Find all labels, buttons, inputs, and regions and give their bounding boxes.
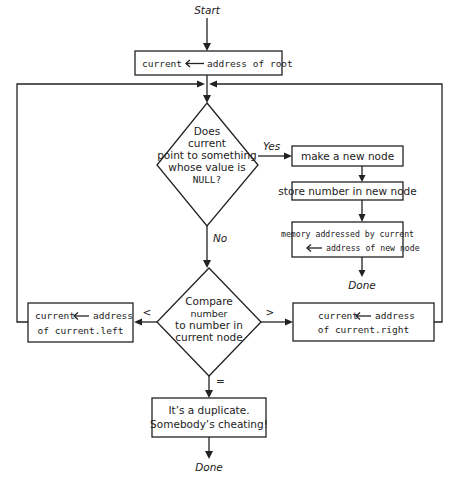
- arrowhead-icon: [205, 451, 213, 459]
- duplicate-line1: It’s a duplicate.: [168, 404, 249, 416]
- arrowhead-icon: [359, 175, 366, 182]
- decision-compare-line: Compare: [185, 295, 233, 307]
- yes-label: Yes: [263, 140, 281, 152]
- decision-compare-line: to number in: [175, 319, 243, 331]
- less-label: <: [143, 306, 152, 318]
- done-label-final: Done: [195, 461, 223, 473]
- no-label: No: [213, 232, 227, 244]
- arrowhead-icon: [197, 81, 205, 88]
- flowchart: Start current address of root Does curre…: [0, 0, 461, 485]
- arrowhead-icon: [359, 270, 366, 277]
- arrowhead-icon: [203, 43, 211, 51]
- store-number-box: store number in new node: [278, 182, 416, 200]
- make-node-text: make a new node: [301, 150, 394, 162]
- left-box: current address of current.left: [28, 303, 133, 342]
- arrowhead-icon: [134, 319, 142, 326]
- memory-line1: memory addressed by current: [281, 229, 414, 239]
- arrowhead-icon: [209, 81, 217, 88]
- loop-right: [216, 84, 442, 322]
- right-box-line2: of current.right: [318, 324, 410, 335]
- decision-null-line: Does: [194, 125, 220, 137]
- decision-null-line: point to something: [157, 149, 257, 161]
- arrowhead-icon: [205, 390, 213, 398]
- make-node-box: make a new node: [292, 146, 403, 166]
- init-box-left: current: [142, 58, 182, 69]
- init-box-right: address of root: [207, 58, 293, 69]
- arrowhead-icon: [203, 260, 211, 268]
- store-number-text: store number in new node: [278, 185, 416, 197]
- decision-null-line: whose value is: [168, 161, 245, 173]
- decision-null: Does current point to something whose va…: [157, 103, 258, 226]
- start-label: Start: [194, 4, 221, 16]
- decision-compare: Compare number to number in current node: [157, 268, 261, 376]
- left-box-line1-right: address: [93, 310, 133, 321]
- arrowhead-icon: [203, 95, 211, 103]
- duplicate-line2: Somebody’s cheating!: [150, 418, 268, 430]
- right-box: current address of current.right: [293, 303, 434, 341]
- memory-line2: address of new node: [326, 243, 420, 253]
- loop-left: [17, 84, 198, 322]
- decision-null-line: NULL?: [193, 174, 222, 185]
- left-box-line1-left: current: [35, 310, 75, 321]
- arrowhead-icon: [285, 319, 293, 326]
- equal-label: =: [216, 375, 225, 387]
- memory-box: memory addressed by current address of n…: [281, 222, 420, 257]
- duplicate-box: It’s a duplicate. Somebody’s cheating!: [150, 398, 268, 437]
- arrowhead-icon: [284, 153, 292, 160]
- left-box-line2: of current.left: [38, 325, 124, 336]
- right-box-line1-left: current: [318, 310, 358, 321]
- done-label-insert: Done: [348, 279, 376, 291]
- greater-label: >: [266, 306, 275, 318]
- right-box-line1-right: address: [375, 310, 415, 321]
- init-box: current address of root: [135, 51, 293, 75]
- decision-compare-line: current node: [175, 331, 242, 343]
- arrowhead-icon: [359, 214, 366, 222]
- decision-compare-line: number: [190, 308, 227, 319]
- decision-null-line: current: [188, 137, 226, 149]
